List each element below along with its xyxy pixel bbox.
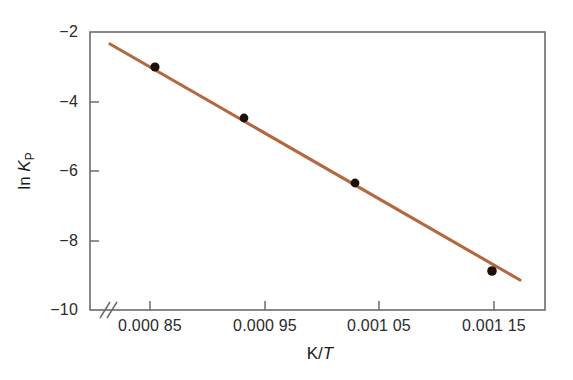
x-axis-title-plain: K/ (307, 344, 323, 363)
x-tick-label-00095: 0.000 95 (233, 317, 297, 335)
y-axis-title: ln KP (15, 152, 37, 189)
y-axis-title-plain: ln (15, 172, 34, 190)
data-point-group (150, 62, 496, 275)
y-tick-label-minus8: −8 (40, 232, 78, 250)
x-tick-label-00105: 0.001 05 (347, 317, 411, 335)
data-point (487, 266, 497, 276)
y-tick-label-minus10: −10 (32, 301, 78, 319)
data-point (351, 179, 360, 188)
plot-frame (90, 32, 545, 310)
y-tick-label-minus2: −2 (40, 23, 78, 41)
y-axis-title-subscript: P (23, 152, 37, 160)
data-point (150, 62, 159, 71)
y-tick-label-minus6: −6 (40, 162, 78, 180)
y-axis-ticks (90, 102, 99, 241)
y-tick-label-minus4: −4 (40, 93, 78, 111)
x-axis-title-italic: T (323, 344, 333, 363)
x-tick-label-00115: 0.001 15 (462, 317, 526, 335)
y-axis-title-italic: K (15, 160, 34, 171)
x-axis-title: K/T (307, 344, 333, 364)
data-point (240, 114, 249, 123)
x-tick-label-00085: 0.000 85 (118, 317, 182, 335)
x-axis-ticks (150, 301, 494, 310)
best-fit-line (110, 44, 520, 280)
chart-figure: −2 −4 −6 −8 −10 0.000 85 0.000 95 0.001 … (0, 0, 573, 380)
